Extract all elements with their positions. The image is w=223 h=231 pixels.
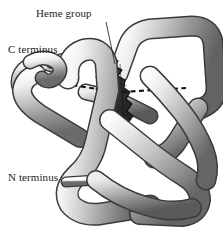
protein-structure-figure: Heme group C terminus N terminus xyxy=(0,0,223,231)
c-terminus-label: C terminus xyxy=(8,43,58,55)
protein-illustration xyxy=(0,0,223,231)
n-terminus-label: N terminus xyxy=(8,171,58,183)
heme-group-label: Heme group xyxy=(36,7,92,19)
